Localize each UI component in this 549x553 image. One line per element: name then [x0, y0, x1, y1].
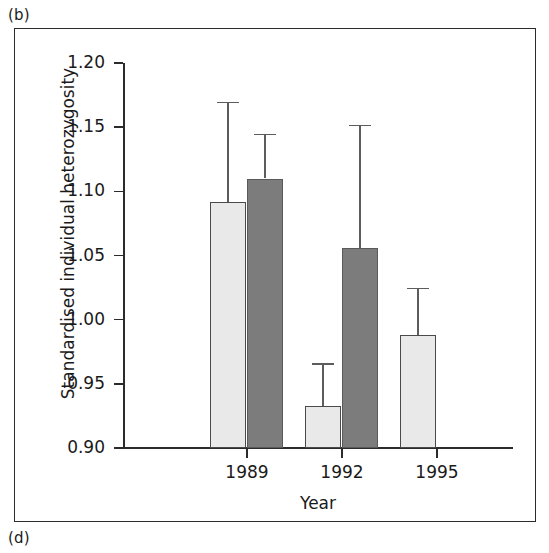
x-axis-tick-mark — [341, 449, 342, 458]
y-axis-tick-mark — [114, 383, 123, 384]
error-bar-stem-1992-dark — [359, 125, 360, 248]
y-axis-tick-mark — [114, 319, 123, 320]
y-axis-tick-mark — [114, 62, 123, 63]
panel-label-b: (b) — [8, 8, 30, 23]
error-bar-cap-1989-light — [217, 102, 239, 104]
bar-1989-dark — [247, 179, 283, 449]
panel-label-d: (d) — [8, 531, 30, 546]
figure-frame: 0.900.951.001.051.101.151.20 19891992199… — [14, 28, 536, 522]
x-axis-tick-mark — [436, 449, 437, 458]
error-bar-stem-1989-dark — [264, 134, 265, 179]
bar-1989-light — [210, 202, 246, 448]
x-axis-tick-mark — [246, 449, 247, 458]
bar-1992-light — [305, 406, 341, 448]
error-bar-cap-1995-light — [407, 288, 429, 290]
error-bar-cap-1992-light — [312, 363, 334, 365]
x-axis-tick-label: 1989 — [192, 464, 302, 481]
y-axis-title: Standardised individual heterozygosity — [60, 34, 77, 434]
y-axis-tick-mark — [114, 255, 123, 256]
error-bar-stem-1989-light — [227, 102, 228, 202]
y-axis-tick-mark — [114, 191, 123, 192]
error-bar-cap-1989-dark — [254, 134, 276, 136]
y-axis-tick-mark — [114, 126, 123, 127]
y-axis-tick-mark — [114, 447, 123, 448]
x-axis-title: Year — [123, 495, 513, 512]
x-axis-tick-label: 1992 — [287, 464, 397, 481]
y-axis-tick-label: 0.90 — [15, 439, 107, 456]
error-bar-stem-1995-light — [417, 288, 418, 335]
y-axis-line — [123, 63, 125, 448]
bar-1995-light — [400, 335, 436, 448]
error-bar-stem-1992-light — [322, 363, 323, 405]
error-bar-cap-1992-dark — [349, 125, 371, 127]
plot-area: 0.900.951.001.051.101.151.20 19891992199… — [15, 29, 535, 521]
bar-1992-dark — [342, 248, 378, 448]
x-axis-tick-label: 1995 — [382, 464, 492, 481]
